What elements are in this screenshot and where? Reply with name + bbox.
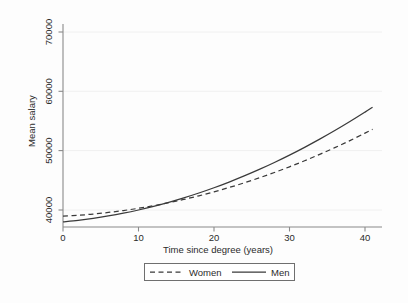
y-tick-label-50000: 50000	[43, 137, 54, 163]
x-tick-label-0: 0	[60, 232, 65, 243]
legend-label-women: Women	[189, 267, 222, 278]
x-tick-label-40: 40	[360, 232, 371, 243]
legend-label-men: Men	[271, 267, 289, 278]
chart-figure: 70000 60000 50000 40000 Mean salary 0 10…	[0, 0, 408, 303]
x-tick-label-30: 30	[284, 232, 295, 243]
mean-salary-line-chart: 70000 60000 50000 40000 Mean salary 0 10…	[0, 0, 408, 303]
y-tick-label-40000: 40000	[43, 197, 54, 223]
x-axis-title: Time since degree (years)	[163, 244, 273, 255]
y-tick-label-70000: 70000	[43, 19, 54, 45]
y-axis-title: Mean salary	[26, 95, 37, 147]
figure-background	[0, 0, 408, 303]
x-tick-label-10: 10	[133, 232, 144, 243]
y-tick-label-60000: 60000	[43, 78, 54, 104]
chart-legend: Women Men	[145, 264, 295, 281]
x-tick-label-20: 20	[209, 232, 220, 243]
